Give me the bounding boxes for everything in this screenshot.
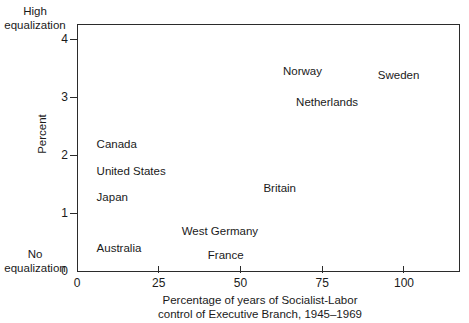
y-tick-label-text: 2: [61, 148, 68, 162]
x-tick-label-text: 100: [394, 276, 414, 290]
data-point-label: France: [208, 249, 244, 261]
y-tick-mark: [70, 39, 77, 40]
data-point-label: United States: [97, 165, 166, 177]
y-tick-label-text: 4: [61, 32, 68, 46]
x-axis-title-line2: control of Executive Branch, 1945–1969: [110, 308, 410, 322]
data-point-label: Norway: [283, 65, 322, 77]
y-axis-top-caption-line2: equalization: [2, 19, 68, 33]
y-tick-label-text: 1: [61, 206, 68, 220]
data-point-label: Canada: [97, 138, 137, 150]
y-tick-label-text: 3: [61, 90, 68, 104]
x-axis-title: Percentage of years of Socialist-Labor c…: [110, 294, 410, 321]
y-tick-mark: [70, 213, 77, 214]
data-point-label: Sweden: [378, 69, 420, 81]
chart-screenshot: 01234 0255075100 High equalization No eq…: [0, 0, 469, 323]
y-axis-bottom-caption: No equalization: [2, 248, 68, 275]
data-point-label: West Germany: [182, 225, 258, 237]
x-axis-title-line1: Percentage of years of Socialist-Labor: [110, 294, 410, 308]
y-axis-bottom-caption-line1: No: [2, 248, 68, 262]
y-axis-title: Percent: [36, 108, 48, 160]
data-point-label: Japan: [97, 191, 128, 203]
y-axis-bottom-caption-line2: equalization: [2, 262, 68, 276]
data-point-label: Australia: [97, 242, 142, 254]
y-tick-mark: [70, 155, 77, 156]
x-tick-label-text: 50: [234, 276, 247, 290]
x-tick-mark: [322, 266, 323, 273]
x-tick-mark: [158, 266, 159, 273]
y-axis-top-caption: High equalization: [2, 5, 68, 32]
x-tick-mark: [240, 266, 241, 273]
x-tick-mark: [403, 266, 404, 273]
x-tick-label-text: 0: [74, 276, 81, 290]
y-axis-top-caption-line1: High: [2, 5, 68, 19]
y-tick-mark: [70, 97, 77, 98]
x-tick-label-text: 25: [152, 276, 165, 290]
data-point-label: Netherlands: [296, 96, 358, 108]
data-point-label: Britain: [263, 182, 296, 194]
x-tick-label-text: 75: [316, 276, 329, 290]
